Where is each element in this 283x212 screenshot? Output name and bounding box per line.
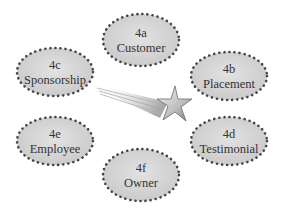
node-code: 4d (223, 127, 236, 142)
node-label: Customer (117, 41, 166, 56)
node-4c-sponsorship: 4c Sponsorship (15, 46, 95, 100)
node-label: Testimonial (200, 142, 259, 157)
shooting-star-icon (95, 86, 192, 121)
node-4a-customer: 4a Customer (101, 14, 181, 68)
node-label: Owner (124, 176, 158, 191)
node-4f-owner: 4f Owner (101, 149, 181, 203)
node-4d-testimonial: 4d Testimonial (189, 115, 269, 169)
node-code: 4b (223, 62, 236, 77)
node-4b-placement: 4b Placement (189, 50, 269, 104)
node-label: Employee (30, 142, 81, 157)
node-label: Placement (203, 77, 255, 92)
node-code: 4c (49, 58, 61, 73)
node-label: Sponsorship (24, 73, 86, 88)
node-code: 4a (135, 26, 147, 41)
node-code: 4e (49, 127, 61, 142)
node-code: 4f (136, 161, 146, 176)
node-4e-employee: 4e Employee (15, 115, 95, 169)
